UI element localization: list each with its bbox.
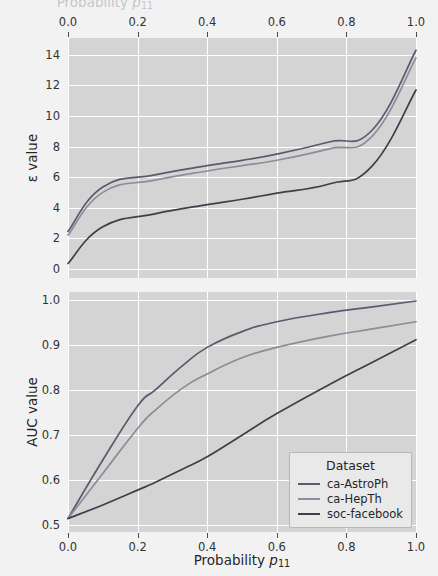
line-ca-HepTh: [68, 58, 416, 235]
epsilon-value-panel: [68, 38, 416, 278]
y-tick-label: 1.0: [42, 293, 60, 307]
cropped-top-caption: Probability p11: [57, 0, 154, 11]
x-tick-mark: [207, 32, 208, 37]
y-tick-label: 12: [45, 78, 60, 92]
x-tick-mark: [416, 32, 417, 37]
top-line-series: [68, 38, 416, 278]
y-tick-label: 6: [53, 170, 60, 184]
auc-value-panel: Dataset ca-AstroPhca-HepThsoc-facebook: [68, 292, 416, 532]
x-tick-label: 0.6: [268, 15, 286, 29]
legend-item[interactable]: ca-AstroPh: [298, 476, 403, 491]
x-tick-label: 0.2: [128, 15, 146, 29]
x-axis-subscript: 11: [141, 0, 153, 11]
y-tick-label: 8: [53, 140, 60, 154]
y-tick-label: 0.8: [42, 383, 60, 397]
y-tick-label: 0.6: [42, 473, 60, 487]
legend[interactable]: Dataset ca-AstroPhca-HepThsoc-facebook: [289, 452, 412, 528]
x-tick-mark: [277, 533, 278, 538]
x-axis-variable: p: [132, 0, 141, 10]
line-ca-AstroPh: [68, 50, 416, 231]
y-tick-label: 2: [53, 231, 60, 245]
y-tick-label: 10: [45, 109, 60, 123]
y-tick-label: 0.5: [42, 518, 60, 532]
x-tick-mark: [277, 32, 278, 37]
x-tick-label: 0.0: [59, 540, 77, 554]
x-tick-mark: [68, 533, 69, 538]
legend-line-swatch: [298, 498, 320, 500]
x-tick-label: 1.0: [407, 540, 425, 554]
y-tick-label: 0.9: [42, 338, 60, 352]
x-tick-label: 0.8: [337, 15, 355, 29]
y-tick-label: 0: [53, 262, 60, 276]
legend-item-label: ca-HepTh: [327, 492, 382, 506]
x-tick-label: 0.4: [198, 15, 216, 29]
x-tick-label: 0.2: [128, 540, 146, 554]
legend-item-label: soc-facebook: [327, 507, 403, 521]
legend-item-label: ca-AstroPh: [327, 477, 388, 491]
y-tick-label: 4: [53, 201, 60, 215]
x-axis-title: Probability p11: [194, 552, 291, 569]
x-tick-mark: [346, 32, 347, 37]
legend-item[interactable]: soc-facebook: [298, 506, 403, 521]
line-soc-facebook: [68, 90, 416, 264]
legend-item[interactable]: ca-HepTh: [298, 491, 403, 506]
legend-entries: ca-AstroPhca-HepThsoc-facebook: [298, 476, 403, 521]
legend-line-swatch: [298, 513, 320, 515]
y-tick-label: 0.7: [42, 428, 60, 442]
x-tick-mark: [138, 32, 139, 37]
x-tick-label: 1.0: [407, 15, 425, 29]
top-y-axis-title: ε value: [24, 134, 40, 182]
figure-canvas: Probability p11 0.00.20.40.60.81.0 02468…: [0, 0, 438, 576]
x-tick-label: 0.0: [59, 15, 77, 29]
x-axis-subscript: 11: [278, 558, 290, 569]
gridline-vertical: [416, 38, 417, 278]
x-tick-label: 0.8: [337, 540, 355, 554]
x-tick-mark: [346, 533, 347, 538]
gridline-vertical: [416, 292, 417, 532]
legend-line-swatch: [298, 483, 320, 485]
x-tick-mark: [68, 32, 69, 37]
x-tick-mark: [138, 533, 139, 538]
legend-title: Dataset: [298, 458, 403, 473]
y-tick-label: 14: [45, 48, 60, 62]
x-axis-variable: p: [269, 552, 278, 568]
bottom-y-axis-title: AUC value: [24, 377, 40, 447]
x-tick-mark: [416, 533, 417, 538]
x-tick-mark: [207, 533, 208, 538]
